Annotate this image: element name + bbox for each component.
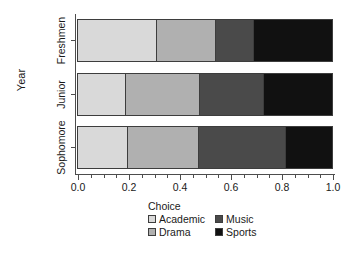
x-axis-minor-tick <box>142 175 143 178</box>
y-axis-line <box>75 14 76 174</box>
legend-swatch-drama-icon <box>148 228 156 236</box>
x-tick-label: 0.4 <box>160 181 200 193</box>
x-axis-minor-tick <box>257 175 258 178</box>
x-axis-minor-tick <box>308 175 309 178</box>
bar-segment-freshmen-music[interactable] <box>215 19 254 62</box>
y-axis-title: Year <box>14 50 28 110</box>
x-tick-label: 0.8 <box>262 181 302 193</box>
chart-legend: Choice AcademicDrama MusicSports <box>148 200 278 238</box>
plot-area <box>78 14 333 174</box>
x-axis-minor-tick <box>155 175 156 178</box>
x-tick-label: 1.0 <box>313 181 353 193</box>
x-axis-minor-tick <box>193 175 194 178</box>
x-axis-major-tick <box>231 175 232 180</box>
legend-title: Choice <box>148 200 278 212</box>
x-axis-minor-tick <box>320 175 321 178</box>
legend-item-sports[interactable]: Sports <box>215 226 256 238</box>
x-axis-major-tick <box>78 175 79 180</box>
x-axis-minor-tick <box>206 175 207 178</box>
legend-swatch-music-icon <box>215 215 223 223</box>
bar-segment-sophomore-drama[interactable] <box>127 126 199 169</box>
x-tick-label: 0.0 <box>58 181 98 193</box>
legend-label: Drama <box>159 226 191 238</box>
legend-swatch-academic-icon <box>148 215 156 223</box>
bar-segment-junior-music[interactable] <box>199 73 264 116</box>
stacked-bar-chart: Year Freshmen Junior Sophomore 0.00.20.4… <box>0 0 359 253</box>
legend-swatch-sports-icon <box>215 228 223 236</box>
legend-column-right: MusicSports <box>215 213 256 238</box>
legend-item-music[interactable]: Music <box>215 213 256 225</box>
bar-segment-junior-drama[interactable] <box>125 73 200 116</box>
y-tick-label-sophomore: Sophomore <box>55 111 68 185</box>
bar-segment-freshmen-drama[interactable] <box>156 19 216 62</box>
bar-row-junior <box>78 73 333 116</box>
bar-segment-sophomore-academic[interactable] <box>77 126 128 169</box>
x-axis-minor-tick <box>269 175 270 178</box>
legend-item-drama[interactable]: Drama <box>148 226 205 238</box>
legend-label: Academic <box>159 213 205 225</box>
x-axis-minor-tick <box>104 175 105 178</box>
x-axis-major-tick <box>180 175 181 180</box>
x-axis-minor-tick <box>295 175 296 178</box>
bar-row-freshmen <box>78 19 333 62</box>
x-axis-major-tick <box>282 175 283 180</box>
bar-segment-sophomore-sports[interactable] <box>285 126 333 169</box>
x-axis-minor-tick <box>91 175 92 178</box>
x-axis-minor-tick <box>167 175 168 178</box>
y-axis-tick <box>71 40 75 41</box>
x-tick-label: 0.6 <box>211 181 251 193</box>
y-axis-tick <box>71 147 75 148</box>
x-axis-minor-tick <box>218 175 219 178</box>
bar-segment-sophomore-music[interactable] <box>198 126 286 169</box>
bar-segment-freshmen-academic[interactable] <box>77 19 157 62</box>
x-axis-major-tick <box>333 175 334 180</box>
x-axis-minor-tick <box>244 175 245 178</box>
bar-row-sophomore <box>78 126 333 169</box>
x-axis-major-tick <box>129 175 130 180</box>
legend-item-academic[interactable]: Academic <box>148 213 205 225</box>
legend-column-left: AcademicDrama <box>148 213 205 238</box>
bar-segment-junior-sports[interactable] <box>263 73 333 116</box>
x-axis-minor-tick <box>116 175 117 178</box>
legend-label: Music <box>226 213 253 225</box>
bar-segment-junior-academic[interactable] <box>77 73 126 116</box>
legend-label: Sports <box>226 226 256 238</box>
y-axis-tick <box>71 94 75 95</box>
x-tick-label: 0.2 <box>109 181 149 193</box>
bar-segment-freshmen-sports[interactable] <box>253 19 333 62</box>
